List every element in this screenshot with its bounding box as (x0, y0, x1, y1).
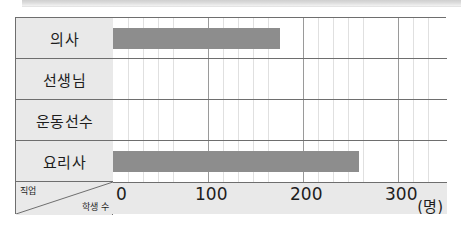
axis-corner-cell: 직업 학생 수 (16, 182, 113, 214)
category-label-cell: 의사 (16, 18, 113, 59)
x-axis-unit-label: (명) (417, 195, 443, 214)
gridline-minor-320 (413, 18, 414, 182)
scan-edge-artifact (22, 0, 461, 7)
gridline-major-300 (398, 18, 399, 182)
bar-요리사 (113, 151, 359, 172)
category-label-cell: 선생님 (16, 59, 113, 100)
plot-area (113, 18, 447, 182)
row-divider (113, 99, 447, 100)
category-label-cell: 운동선수 (16, 100, 113, 141)
x-tick-label: 100 (195, 184, 227, 204)
bar-chart: 의사 선생님 운동선수 요리사 직업 학생 수 0 (15, 17, 446, 214)
x-tick-label: 0 (116, 184, 127, 204)
gridline-minor-280 (363, 18, 364, 182)
scan-left-margin (0, 0, 6, 229)
bar-의사 (113, 28, 280, 49)
x-axis-strip: 0 100 200 300 (명) (113, 182, 447, 214)
gridline-minor-340 (428, 18, 429, 182)
row-divider (113, 58, 447, 59)
x-axis-title: 학생 수 (82, 200, 109, 213)
x-tick-label: 200 (290, 184, 322, 204)
y-axis-title: 직업 (20, 184, 36, 197)
row-divider (113, 140, 447, 141)
category-label-cell: 요리사 (16, 141, 113, 182)
x-tick-label: 300 (385, 184, 417, 204)
